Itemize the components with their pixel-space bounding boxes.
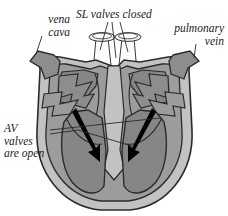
label-av-valves-line1: AV [4,122,78,135]
label-vena-cava-line2: cava [12,26,70,39]
label-av-valves-open: AV valves are open [4,122,78,160]
label-pulmonary-vein-line2: vein [152,35,224,48]
label-vena-cava: vena cava [12,13,70,38]
label-av-valves-line3: are open [4,147,78,160]
label-sl-valves-closed: SL valves closed [76,8,184,21]
label-vena-cava-line1: vena [12,13,70,26]
label-pulmonary-vein: pulmonary vein [152,22,224,47]
heart-diagram: vena cava SL valves closed pulmonary vei… [0,0,228,216]
label-sl-valves-line1: SL valves closed [76,8,184,21]
superior-vena-cava-stub [30,51,60,79]
label-av-valves-line2: valves [4,135,78,148]
label-pulmonary-vein-line1: pulmonary [152,22,224,35]
